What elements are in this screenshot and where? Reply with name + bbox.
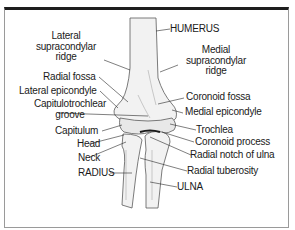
label-neck: Neck: [78, 153, 100, 164]
label-capitulum: Capitulum: [55, 126, 98, 137]
label-lateral-epicondyle: Lateral epicondyle: [19, 86, 97, 97]
label-radius: RADIUS: [78, 168, 115, 179]
radius-bone: [122, 134, 142, 208]
label-coronoid-process: Coronoid process: [195, 137, 270, 148]
label-medial-supracondylar-ridge: Medial supracondylar ridge: [176, 45, 256, 77]
label-radial-notch-of-ulna: Radial notch of ulna: [190, 150, 274, 161]
label-head: Head: [77, 139, 100, 150]
label-medial-epicondyle: Medial epicondyle: [185, 107, 262, 118]
label-lateral-supracondylar-ridge: Lateral supracondylar ridge: [20, 31, 112, 63]
ulna-bone: [145, 132, 170, 209]
humerus-bone: [114, 18, 177, 124]
label-humerus: HUMERUS: [170, 24, 219, 35]
label-radial-tuberosity: Radial tuberosity: [187, 166, 258, 177]
label-ulna: ULNA: [177, 182, 203, 193]
label-capitulotrochlear-groove: Capitulotrochlear groove: [22, 99, 118, 120]
label-trochlea: Trochlea: [196, 125, 233, 136]
label-coronoid-fossa: Coronoid fossa: [186, 92, 250, 103]
label-radial-fossa: Radial fossa: [43, 72, 96, 83]
